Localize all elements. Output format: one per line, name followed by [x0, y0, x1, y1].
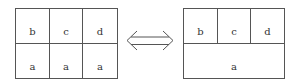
right-cell-d: d: [251, 9, 284, 44]
right-cell-c: c: [218, 9, 251, 44]
left-cell-a2: a: [50, 44, 83, 78]
left-cell-b: b: [16, 9, 50, 44]
left-cell-a3: a: [83, 44, 117, 78]
left-cell-a1: a: [16, 44, 50, 78]
left-cell-c: c: [50, 9, 83, 44]
right-cell-a-merged: a: [184, 44, 284, 78]
left-cell-d: d: [83, 9, 117, 44]
double-arrow-icon: [124, 28, 176, 54]
right-cell-b: b: [184, 9, 218, 44]
left-grid: b c d a a a: [15, 8, 118, 79]
right-grid: b c d a: [183, 8, 285, 79]
